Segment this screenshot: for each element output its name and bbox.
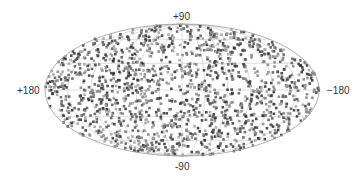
- tick-label-left: +180: [17, 86, 40, 96]
- tick-label-top: +90: [173, 12, 190, 22]
- tick-label-bottom: -90: [175, 162, 189, 172]
- mollweide-sky-map: [0, 0, 358, 178]
- tick-label-right: −180: [327, 86, 350, 96]
